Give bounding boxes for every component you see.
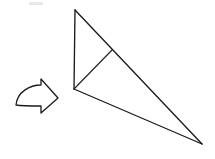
scan-smudge <box>29 2 43 5</box>
paper-folding-diagram <box>0 0 215 159</box>
figure-canvas <box>0 0 215 159</box>
